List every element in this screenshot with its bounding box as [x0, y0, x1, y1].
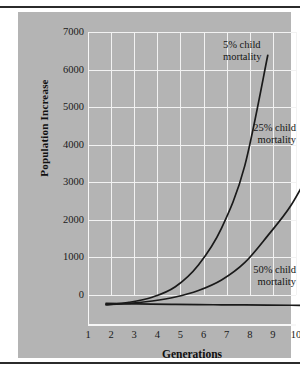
chart-figure: 70006000500040003000200010000 1234567891…	[0, 0, 300, 372]
series-line	[106, 303, 300, 305]
top-divider-rule	[0, 6, 300, 8]
series-curves	[18, 12, 300, 372]
series-line	[106, 164, 300, 305]
series-line	[106, 55, 268, 304]
chart-panel: 70006000500040003000200010000 1234567891…	[18, 12, 291, 358]
